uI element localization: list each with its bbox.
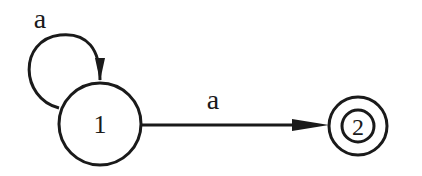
self-loop-label: a xyxy=(34,3,47,34)
arrowhead-icon xyxy=(95,58,105,81)
arrowhead-icon xyxy=(292,119,329,131)
state-label: 1 xyxy=(94,110,107,139)
edge-label: a xyxy=(207,84,220,115)
state-label: 2 xyxy=(352,114,364,140)
state-2-accepting: 2 xyxy=(329,97,387,155)
automaton-diagram: a a 1 2 xyxy=(0,0,422,176)
state-1: 1 xyxy=(59,83,141,165)
edge-transition: a xyxy=(141,84,329,131)
